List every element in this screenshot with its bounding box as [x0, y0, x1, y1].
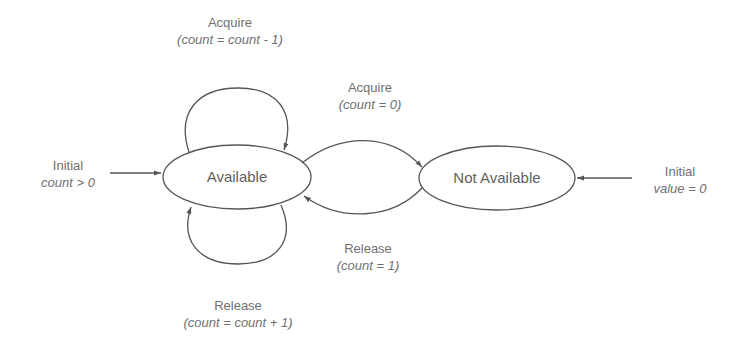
initial-right-label: Initial value = 0 — [640, 163, 720, 197]
state-available-label: Available — [197, 168, 277, 185]
acquire-to-na-name: Acquire — [320, 79, 420, 96]
initial-right-condition: value = 0 — [640, 180, 720, 197]
initial-left-label: Initial count > 0 — [28, 157, 108, 191]
initial-left-condition: count > 0 — [28, 174, 108, 191]
release-to-available-arrow — [304, 188, 422, 214]
release-self-condition: (count = count + 1) — [163, 314, 313, 331]
release-self-loop-arrow — [188, 205, 286, 264]
acquire-self-condition: (count = count - 1) — [160, 31, 300, 48]
acquire-to-na-label: Acquire (count = 0) — [320, 79, 420, 113]
release-self-label: Release (count = count + 1) — [163, 297, 313, 331]
release-to-av-name: Release — [318, 240, 418, 257]
state-not-available-label: Not Available — [441, 169, 553, 186]
initial-left-name: Initial — [28, 157, 108, 174]
acquire-to-not-available-arrow — [302, 141, 422, 167]
release-to-av-condition: (count = 1) — [318, 257, 418, 274]
acquire-self-label: Acquire (count = count - 1) — [160, 14, 300, 48]
acquire-to-na-condition: (count = 0) — [320, 96, 420, 113]
acquire-self-name: Acquire — [160, 14, 300, 31]
release-to-av-label: Release (count = 1) — [318, 240, 418, 274]
state-diagram-canvas — [0, 0, 738, 347]
acquire-self-loop-arrow — [185, 88, 287, 152]
release-self-name: Release — [163, 297, 313, 314]
initial-right-name: Initial — [640, 163, 720, 180]
